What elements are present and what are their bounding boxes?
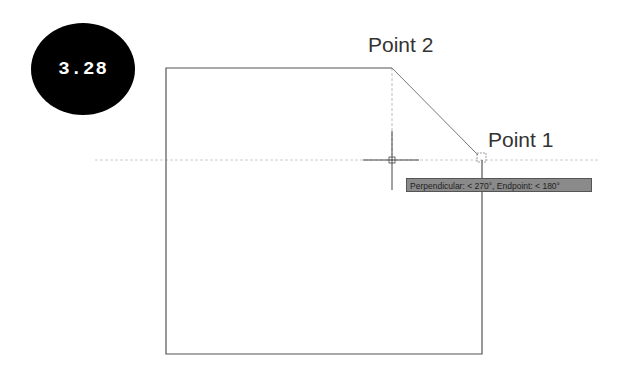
point2-label: Point 2 [368,33,433,57]
osnap-tooltip: Perpendicular: < 270°, Endpoint: < 180° [406,178,592,192]
point1-label: Point 1 [488,128,553,152]
chamfer-line [392,68,478,155]
